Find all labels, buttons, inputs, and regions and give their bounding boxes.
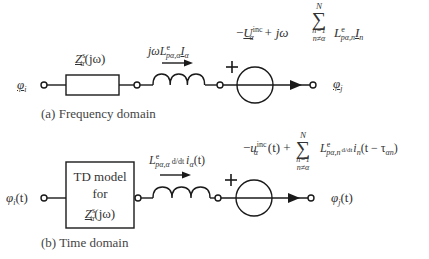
terminal-node: [217, 82, 223, 88]
argument: (t): [194, 153, 205, 167]
node-phi-j-label: φj: [333, 77, 342, 93]
argument: (t): [15, 190, 27, 205]
subscript: pα,n: [326, 148, 340, 157]
td-model-box-text: TD model for Zsα(jω): [66, 168, 134, 227]
inductor-coil: [153, 187, 210, 198]
subscript: pα,α: [166, 51, 180, 60]
sigma-symbol: ∑: [290, 140, 316, 156]
terminal-node: [41, 195, 47, 201]
source-expression-a-part2: Lepα,nIn: [334, 26, 363, 42]
impedance-label: Zsα(jω): [75, 52, 105, 68]
argument: (jω): [94, 206, 115, 221]
circuit-schematic: [0, 0, 429, 259]
node-phi-i-label: φi: [17, 78, 26, 94]
panel-a-circuit: [47, 63, 310, 103]
inductor-voltage-label-a: jωLepα,αIα: [148, 44, 189, 60]
subscript: i: [24, 85, 26, 94]
plus-jw: + jω: [264, 25, 289, 40]
terminal-node: [135, 195, 141, 201]
argument: (t − τ: [361, 141, 386, 155]
derivative-operator: d/dt: [341, 146, 352, 154]
box-line-2: for: [66, 185, 134, 202]
subscript: α: [250, 33, 254, 42]
argument: (t): [340, 190, 352, 205]
sum-exclusion: n≠α: [306, 35, 332, 43]
sigma-symbol: ∑: [306, 11, 332, 27]
derivative-operator: d/dt: [172, 157, 184, 166]
argument: (jω): [85, 51, 106, 66]
subscript: pα,n: [341, 33, 355, 42]
inductor-voltage-label-b: Lepα,αd/dtiα(t): [149, 153, 205, 169]
box-line-3: Zsα(jω): [66, 202, 134, 227]
source-direction-arrow: [290, 80, 302, 90]
superscript: inc: [257, 140, 267, 149]
terminal-node: [134, 82, 140, 88]
impedance-box: [66, 75, 119, 95]
terminal-node: [215, 195, 221, 201]
superscript: inc: [253, 25, 263, 34]
inductor-coil: [153, 74, 205, 85]
current-arrow-head: [184, 60, 193, 67]
subscript: n: [359, 33, 363, 42]
source-direction-arrow: [288, 193, 300, 203]
current-arrow-head: [182, 172, 191, 179]
subscript: α: [184, 51, 188, 60]
caption-frequency-domain: (a) Frequency domain: [41, 107, 156, 120]
summation-b: N ∑ n=1 n≠α: [290, 131, 316, 172]
terminal-node: [308, 195, 314, 201]
node-phi-i-t-label: φi(t): [6, 191, 28, 207]
summation-a: N ∑ n=1 n≠α: [306, 2, 332, 43]
source-expression-a-part1: −Uincα+ jω: [236, 26, 289, 42]
box-line-1: TD model: [66, 168, 134, 185]
subscript: α: [254, 148, 258, 157]
source-expression-b-part1: −uincα(t) +: [243, 141, 291, 157]
subscript: j: [340, 84, 342, 93]
subscript: αn: [386, 148, 394, 157]
terminal-node: [41, 82, 47, 88]
node-phi-j-t-label: φj(t): [331, 191, 353, 207]
argument-plus: (t) +: [268, 140, 291, 155]
sum-exclusion: n≠α: [290, 164, 316, 172]
subscript: pα,α: [155, 160, 169, 169]
close-paren: ): [394, 141, 398, 155]
jw-symbol: jω: [148, 44, 160, 58]
source-expression-b-part2: Lepα,nd/dtin(t − ταn): [320, 141, 398, 157]
caption-time-domain: (b) Time domain: [41, 236, 128, 249]
terminal-node: [310, 82, 316, 88]
